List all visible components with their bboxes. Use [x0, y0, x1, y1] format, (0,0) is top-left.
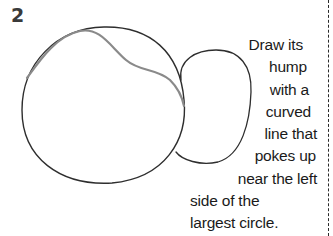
instruction-line: near the left: [187, 168, 317, 190]
instruction-line: line that: [187, 123, 317, 145]
instruction-line: pokes up: [187, 145, 317, 167]
instruction-text: Draw its hump with a curved line that po…: [187, 34, 317, 235]
instruction-line: Draw its: [187, 34, 317, 56]
instruction-line: with a: [187, 79, 317, 101]
instruction-line: curved: [187, 101, 317, 123]
dashed-cut-line: [328, 0, 329, 236]
large-circle: [22, 27, 184, 183]
instruction-line: largest circle.: [187, 212, 317, 234]
instruction-line: side of the: [187, 190, 317, 212]
hump-curve: [27, 30, 184, 106]
instruction-line: hump: [187, 56, 317, 78]
